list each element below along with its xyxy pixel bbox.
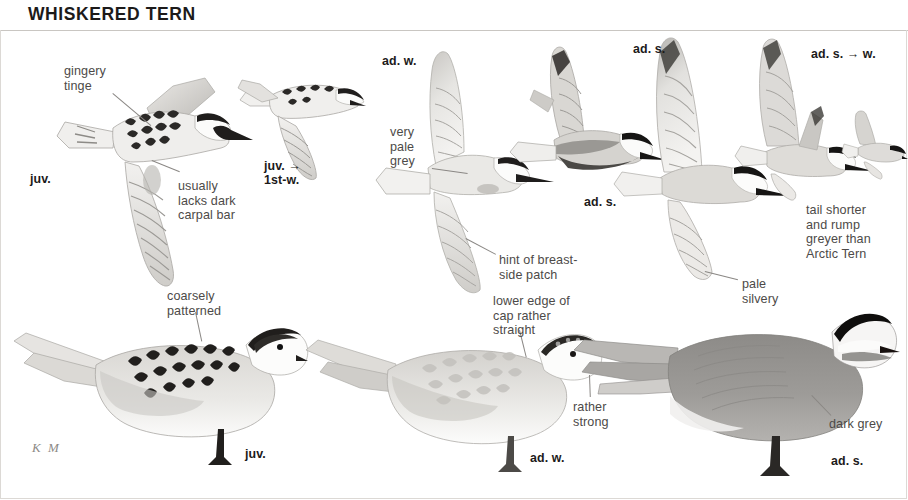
annotation-hint-of-breast-side-patch: hint of breast- side patch	[499, 253, 578, 282]
label-ad-w-flight: ad. w.	[382, 55, 417, 69]
label-ad-s-flight-large: ad. s.	[633, 43, 665, 57]
annotation-rather-strong: rather strong	[573, 400, 609, 429]
annotation-very-pale-grey: very pale grey	[390, 125, 415, 169]
label-juv-standing: juv.	[245, 448, 266, 462]
label-ad-s-to-w-flight: ad. s. → w.	[811, 48, 876, 62]
label-juv-to-1st-winter: juv. → 1st-w.	[264, 160, 301, 188]
page-title: WHISKERED TERN	[28, 4, 196, 25]
annotation-tail-shorter-rump-greyer: tail shorter and rump greyer than Arctic…	[806, 203, 871, 261]
annotation-pale-silvery: pale silvery	[742, 277, 778, 306]
bird-adult-summer-to-winter-distant	[842, 110, 908, 182]
bird-juv-standing	[8, 305, 308, 490]
annotation-usually-lacks-carpal-bar: usually lacks dark carpal bar	[178, 179, 236, 223]
label-ad-s-flight-small: ad. s.	[584, 196, 616, 210]
artist-signature: K M	[32, 440, 61, 456]
annotation-dark-grey: dark grey	[829, 417, 882, 432]
annotation-gingery-tinge: gingery tinge	[64, 64, 106, 93]
label-ad-s-standing: ad. s.	[831, 455, 863, 469]
field-guide-plate: WHISKERED TERN	[0, 0, 908, 500]
annotation-lower-edge-of-cap: lower edge of cap rather straight	[493, 294, 570, 338]
label-juv-flight: juv.	[30, 173, 51, 187]
annotation-coarsely-patterned: coarsely patterned	[167, 289, 221, 318]
bird-adult-winter-standing	[300, 318, 600, 493]
label-ad-w-standing: ad. w.	[530, 452, 565, 466]
